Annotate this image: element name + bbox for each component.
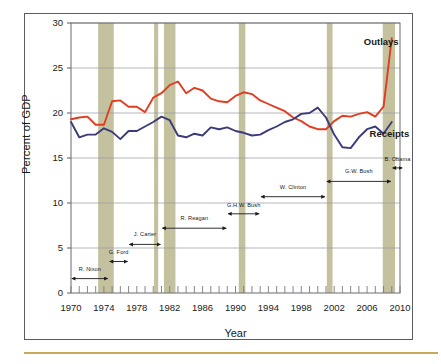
x-tick-label-1970: 1970	[53, 302, 89, 313]
annotation-r-nixon-label: R. Nixon	[70, 266, 110, 272]
x-axis-title: Year	[71, 327, 400, 339]
y-axis-title: Percent of GDP	[20, 64, 32, 204]
y-tick-label-15: 15	[37, 152, 63, 163]
y-tick-label-20: 20	[37, 107, 63, 118]
x-tick-label-1994: 1994	[250, 302, 286, 313]
x-tick-label-2002: 2002	[316, 302, 352, 313]
y-tick-label-25: 25	[37, 62, 63, 73]
x-tick-label-1998: 1998	[283, 302, 319, 313]
annotation-b-obama-label: B. Obama	[378, 156, 418, 162]
x-tick-label-2010: 2010	[382, 302, 418, 313]
annotation-w-clinton-label: W. Clinton	[273, 184, 313, 190]
y-tick-label-10: 10	[37, 197, 63, 208]
x-tick-label-1982: 1982	[152, 302, 188, 313]
annotation-j-carter-label: J. Carter	[125, 231, 165, 237]
annotation-gw-bush-label: G.W. Bush	[339, 168, 379, 174]
receipts-label: Receipts	[370, 128, 410, 139]
x-axis-ticks	[71, 286, 400, 293]
outlays-label: Outlays	[364, 36, 399, 47]
annotation-g-ford-label: G. Ford	[99, 249, 139, 255]
figure-container: Percent of GDP Year 05101520253019701974…	[0, 0, 441, 364]
annotation-ghw-bush-label: G.H.W. Bush	[224, 202, 264, 208]
x-tick-label-1974: 1974	[86, 302, 122, 313]
y-tick-label-30: 30	[37, 17, 63, 28]
x-tick-label-2006: 2006	[349, 302, 385, 313]
y-axis-ticks	[67, 23, 71, 293]
x-tick-label-1986: 1986	[185, 302, 221, 313]
y-tick-label-5: 5	[37, 242, 63, 253]
x-tick-label-1990: 1990	[218, 302, 254, 313]
x-tick-label-1978: 1978	[119, 302, 155, 313]
annotation-r-reagan-label: R. Reagan	[174, 215, 214, 221]
y-tick-label-0: 0	[37, 287, 63, 298]
